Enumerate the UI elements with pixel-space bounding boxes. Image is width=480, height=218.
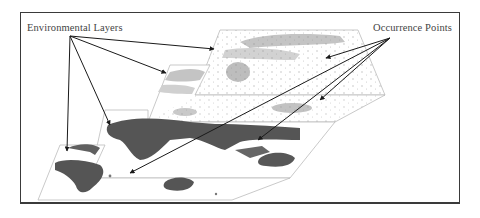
occurrence-points-label: Occurrence Points [373, 22, 452, 33]
environmental-layer-1 [195, 30, 385, 95]
environmental-layers-label: Environmental Layers [27, 22, 123, 33]
